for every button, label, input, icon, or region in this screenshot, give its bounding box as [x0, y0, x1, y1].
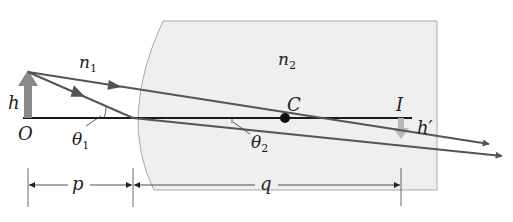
object-O-label: O [18, 123, 33, 144]
theta1-label: θ1 [72, 129, 89, 152]
h-label: h [8, 92, 20, 113]
ray-direction-arrow-icon [71, 85, 88, 100]
image-height-h-prime-label: h′ [417, 117, 433, 138]
image-I-label: I [395, 94, 404, 115]
object-arrow [18, 70, 38, 118]
refraction-diagram: n1 n2 h O θ1 θ2 C I h′ p q [0, 0, 513, 222]
n1-label: n1 [79, 52, 97, 75]
theta1-arc [104, 107, 106, 118]
center-C-label: C [287, 94, 301, 115]
q-label: q [260, 173, 272, 194]
p-label: p [72, 173, 84, 194]
